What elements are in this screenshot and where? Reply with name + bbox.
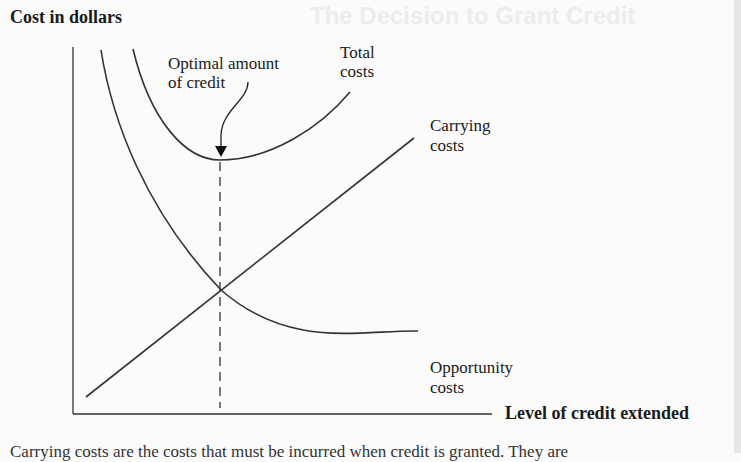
optimal-label-line2: of credit xyxy=(168,73,225,92)
optimal-label-line1: Optimal amount xyxy=(168,54,279,73)
carrying-costs-curve xyxy=(101,50,418,333)
page-margin-strip xyxy=(734,0,741,453)
opportunity-costs-label-line2: costs xyxy=(430,378,464,397)
total-costs-label-line2: costs xyxy=(340,62,374,81)
opportunity-costs-line xyxy=(86,138,414,397)
x-axis-title: Level of credit extended xyxy=(505,404,689,423)
carrying-costs-label-line1: Carrying xyxy=(430,116,490,135)
carrying-costs-label-line2: costs xyxy=(430,136,464,155)
total-costs-label-line1: Total xyxy=(340,43,375,62)
caption-text: Carrying costs are the costs that must b… xyxy=(10,442,568,462)
arrow-head-icon xyxy=(215,146,227,157)
y-axis-title: Cost in dollars xyxy=(10,8,122,27)
opportunity-costs-label-line1: Opportunity xyxy=(430,358,513,377)
